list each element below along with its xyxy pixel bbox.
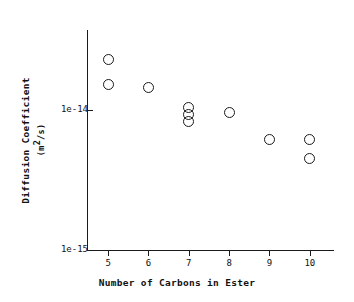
- x-tick-mark: [108, 251, 109, 256]
- x-tick-label: 5: [96, 258, 120, 268]
- data-point: [143, 82, 154, 93]
- data-point: [304, 134, 315, 145]
- x-axis-line: [87, 250, 334, 251]
- y-axis-title: Diffusion Coefficient (m2/s): [0, 30, 44, 250]
- x-axis-title: Number of Carbons in Ester: [0, 277, 354, 288]
- data-point: [103, 54, 114, 65]
- y-unit-prefix: (m: [36, 145, 46, 156]
- x-tick-mark: [189, 251, 190, 256]
- x-tick-mark: [229, 251, 230, 256]
- y-unit-suffix: /s): [36, 124, 46, 140]
- data-point: [224, 107, 235, 118]
- y-tick-mark: [88, 110, 93, 111]
- y-axis-title-unit-text: (m2/s): [32, 124, 46, 157]
- chart-figure: 5678910 1e-141e-15 Number of Carbons in …: [0, 0, 354, 302]
- x-tick-label: 8: [217, 258, 241, 268]
- x-tick-mark: [310, 251, 311, 256]
- y-tick-label: 1e-14: [61, 104, 88, 114]
- y-axis-title-main-text: Diffusion Coefficient: [20, 77, 31, 203]
- y-unit-superscript: 2: [32, 140, 42, 145]
- y-tick-mark: [88, 250, 93, 251]
- y-axis-title-unit: (m2/s): [31, 30, 47, 250]
- data-point: [264, 134, 275, 145]
- x-tick-label: 6: [136, 258, 160, 268]
- x-tick-label: 10: [298, 258, 322, 268]
- x-tick-mark: [148, 251, 149, 256]
- plot-area: [88, 30, 334, 250]
- y-tick-label: 1e-15: [61, 244, 88, 254]
- x-tick-label: 7: [177, 258, 201, 268]
- x-tick-label: 9: [257, 258, 281, 268]
- x-tick-mark: [269, 251, 270, 256]
- data-point: [103, 79, 114, 90]
